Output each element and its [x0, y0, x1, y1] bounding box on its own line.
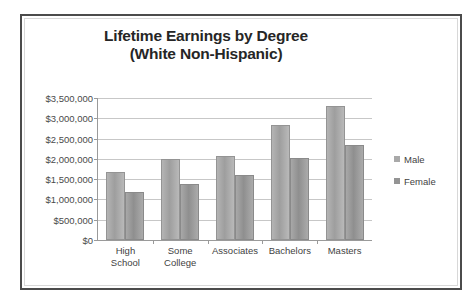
legend-item-female: Female — [394, 170, 456, 192]
bar-male-associates — [216, 156, 235, 240]
chart-title-line-2: (White Non-Hispanic) — [26, 45, 386, 63]
y-axis-tick-label: $500,000 — [53, 214, 93, 225]
x-axis-tick — [153, 240, 154, 244]
bar-female-masters — [345, 145, 364, 240]
legend-swatch-icon — [394, 156, 400, 162]
x-axis-line — [97, 240, 372, 241]
bar-female-bachelors — [290, 158, 309, 240]
legend-item-male: Male — [394, 148, 456, 170]
bar-male-bachelors — [271, 125, 290, 240]
y-axis-tick — [94, 240, 98, 241]
bar-chart: Lifetime Earnings by Degree (White Non-H… — [26, 20, 456, 284]
bar-female-associates — [235, 175, 254, 240]
legend-label: Male — [404, 154, 425, 165]
bar-male-masters — [326, 106, 345, 240]
x-axis-category-labels: HighSchoolSomeCollegeAssociatesBachelors… — [98, 245, 372, 279]
y-axis-tick-label: $2,000,000 — [45, 153, 93, 164]
bar-female-high-school — [125, 192, 144, 240]
x-axis-category-label: Masters — [317, 245, 372, 257]
bar-male-some-college — [161, 159, 180, 240]
y-axis-tick-label: $2,500,000 — [45, 133, 93, 144]
legend-swatch-icon — [394, 178, 400, 184]
x-axis-tick — [262, 240, 263, 244]
x-axis-tick — [317, 240, 318, 244]
bar-group — [208, 98, 263, 240]
chart-title-line-1: Lifetime Earnings by Degree — [104, 27, 308, 44]
chart-screenshot: Lifetime Earnings by Degree (White Non-H… — [0, 0, 475, 304]
x-axis-category-label: SomeCollege — [153, 245, 208, 269]
x-axis-category-label: HighSchool — [98, 245, 153, 269]
y-axis-labels: $0$500,000$1,000,000$1,500,000$2,000,000… — [26, 98, 93, 240]
bar-group — [317, 98, 372, 240]
x-axis-category-label: Associates — [208, 245, 263, 257]
bar-group — [153, 98, 208, 240]
bar-female-some-college — [180, 184, 199, 240]
bar-group — [262, 98, 317, 240]
y-axis-tick-label: $3,000,000 — [45, 113, 93, 124]
chart-title: Lifetime Earnings by Degree (White Non-H… — [26, 27, 386, 63]
bar-group — [98, 98, 153, 240]
x-axis-tick — [208, 240, 209, 244]
legend-label: Female — [404, 176, 436, 187]
x-axis-category-label: Bachelors — [262, 245, 317, 257]
y-axis-tick-label: $1,500,000 — [45, 174, 93, 185]
chart-legend: MaleFemale — [394, 148, 456, 192]
plot-area — [98, 98, 372, 240]
y-axis-tick-label: $1,000,000 — [45, 194, 93, 205]
y-axis-tick-label: $0 — [82, 235, 93, 246]
y-axis-tick-label: $3,500,000 — [45, 93, 93, 104]
bar-male-high-school — [106, 172, 125, 240]
